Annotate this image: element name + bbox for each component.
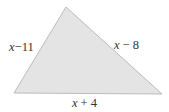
- side-label-bottom-constant: 4: [91, 96, 98, 110]
- side-label-bottom-variable: x: [71, 96, 78, 110]
- side-label-right-variable: x: [113, 38, 120, 52]
- side-label-left-operator: −: [15, 40, 22, 54]
- side-label-left: x−11: [8, 40, 34, 54]
- triangle-diagram: x−11 x−8 x+4: [0, 0, 169, 112]
- side-label-bottom: x+4: [71, 96, 98, 110]
- side-label-left-constant: 11: [22, 40, 34, 54]
- triangle-shape: [14, 7, 162, 94]
- side-label-right-constant: 8: [133, 38, 139, 52]
- side-label-bottom-operator: +: [81, 96, 88, 110]
- side-label-right-operator: −: [123, 38, 130, 52]
- side-label-right: x−8: [113, 38, 139, 52]
